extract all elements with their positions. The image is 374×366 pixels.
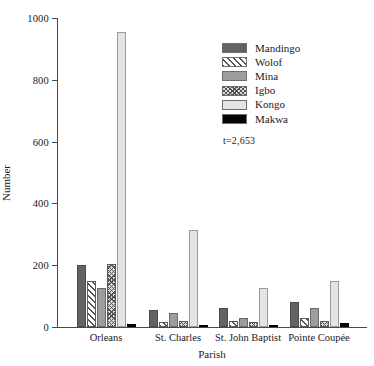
bar-st-john-baptist-mina xyxy=(239,318,248,327)
bar-pointe-coup-e-makwa xyxy=(340,323,349,327)
bar-st-charles-igbo xyxy=(179,321,188,327)
legend-item-makwa: Makwa xyxy=(222,112,340,126)
legend-label-makwa: Makwa xyxy=(255,114,288,125)
legend-item-wolof: Wolof xyxy=(222,55,340,69)
legend-swatch-mandingo-icon xyxy=(222,43,247,53)
bar-orleans-kongo xyxy=(117,32,126,327)
legend-swatch-wolof-icon xyxy=(222,57,247,67)
bar-chart: Number 02004006008001000 OrleansSt. Char… xyxy=(0,0,374,366)
bar-orleans-wolof xyxy=(87,281,96,327)
y-tick-label: 600 xyxy=(33,136,49,147)
legend-item-mina: Mina xyxy=(222,69,340,83)
bar-pointe-coup-e-mandingo xyxy=(290,302,299,327)
bar-pointe-coup-e-mina xyxy=(310,308,319,327)
x-tick-label-st-john-baptist: St. John Baptist xyxy=(215,332,281,343)
bar-st-charles-mandingo xyxy=(149,310,158,327)
legend-item-kongo: Kongo xyxy=(222,98,340,112)
bar-st-john-baptist-makwa xyxy=(269,325,278,327)
legend-total-note: t=2,653 xyxy=(222,135,340,146)
legend-swatch-kongo-icon xyxy=(222,100,247,110)
y-tick-label: 200 xyxy=(33,260,49,271)
bar-orleans-makwa xyxy=(127,324,136,327)
y-axis-title: Number xyxy=(0,165,12,201)
bar-st-charles-wolof xyxy=(159,322,168,327)
bar-st-john-baptist-kongo xyxy=(259,288,268,327)
legend-item-igbo: Igbo xyxy=(222,84,340,98)
bar-st-john-baptist-mandingo xyxy=(219,308,228,327)
bar-st-charles-mina xyxy=(169,313,178,327)
bar-pointe-coup-e-igbo xyxy=(320,321,329,327)
legend-label-mina: Mina xyxy=(255,71,278,82)
legend-swatch-igbo-icon xyxy=(222,86,247,96)
bar-st-john-baptist-igbo xyxy=(249,322,258,327)
x-tick-label-pointe-coup-e: Pointe Coupée xyxy=(288,332,350,343)
bar-pointe-coup-e-kongo xyxy=(330,281,339,327)
legend-swatch-mina-icon xyxy=(222,71,247,81)
x-axis-title: Parish xyxy=(57,348,367,360)
bar-pointe-coup-e-wolof xyxy=(300,318,309,327)
bar-group-st-charles xyxy=(149,18,209,327)
bar-orleans-mandingo xyxy=(77,265,86,327)
x-tick-label-orleans: Orleans xyxy=(90,332,123,343)
legend-label-igbo: Igbo xyxy=(255,85,275,96)
legend-item-mandingo: Mandingo xyxy=(222,41,340,55)
y-tick-label: 800 xyxy=(33,74,49,85)
legend: MandingoWolofMinaIgboKongoMakwa t=2,653 xyxy=(222,41,340,146)
bar-orleans-igbo xyxy=(107,264,116,327)
y-tick-label: 400 xyxy=(33,198,49,209)
y-tick-label: 1000 xyxy=(27,13,49,24)
bar-st-charles-kongo xyxy=(189,230,198,327)
bar-orleans-mina xyxy=(97,288,106,327)
legend-label-wolof: Wolof xyxy=(255,57,282,68)
x-tick-label-st-charles: St. Charles xyxy=(155,332,201,343)
bar-group-orleans xyxy=(77,18,137,327)
legend-label-kongo: Kongo xyxy=(255,99,285,110)
legend-label-mandingo: Mandingo xyxy=(255,43,300,54)
legend-swatch-makwa-icon xyxy=(222,114,247,124)
bar-st-charles-makwa xyxy=(199,325,208,327)
bar-st-john-baptist-wolof xyxy=(229,321,238,327)
y-tick-label: 0 xyxy=(44,322,49,333)
